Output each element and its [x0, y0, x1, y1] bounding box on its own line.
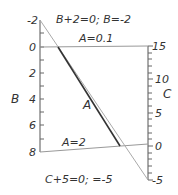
b-tick-label: 4 [29, 93, 36, 106]
nomogram-diagram: -2 0 2 4 6 8 B 15 10 5 0 -5 C A=0.1 A=2 … [0, 0, 178, 195]
a-bottom-label: A=2 [61, 136, 86, 149]
a-top-line [40, 46, 148, 47]
c-tick-label: 15 [152, 40, 166, 53]
b-axis-ticks [40, 33, 44, 139]
bottom-annotation: C+5=0; =-5 [45, 173, 113, 186]
b-tick-label: 2 [29, 67, 36, 80]
c-tick-label: 5 [155, 107, 162, 120]
c-axis-ticks [148, 46, 153, 180]
a-scale-line [58, 47, 120, 146]
b-tick-label: 6 [29, 119, 36, 132]
c-tick-label: 10 [155, 73, 169, 86]
a-scale-name: A [82, 98, 91, 112]
top-annotation: B+2=0; B=-2 [56, 13, 131, 26]
b-tick-label: -2 [27, 14, 38, 27]
b-tick-label: 0 [29, 41, 36, 54]
b-tick-label: 8 [29, 146, 36, 159]
c-tick-label: -5 [152, 174, 163, 187]
c-tick-label: 0 [155, 140, 162, 153]
a-top-label: A=0.1 [78, 32, 113, 45]
a-bottom-line [40, 144, 148, 152]
c-axis-name: C [163, 87, 172, 101]
b-axis-name: B [11, 92, 19, 106]
